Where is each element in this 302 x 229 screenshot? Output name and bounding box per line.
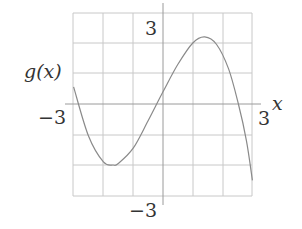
x-min-tick-label: −3 xyxy=(38,106,66,128)
y-max-tick-label: 3 xyxy=(145,17,157,39)
x-max-tick-label: 3 xyxy=(258,107,270,129)
x-axis-label: x xyxy=(272,92,283,114)
y-axis-label: g(x) xyxy=(24,60,62,82)
y-min-tick-label: −3 xyxy=(129,199,157,221)
function-plot: 3 −3 −3 3 g(x) x xyxy=(0,0,302,229)
